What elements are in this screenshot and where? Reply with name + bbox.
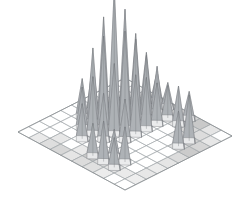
chart-canvas <box>0 0 250 204</box>
spike-surface-svg <box>0 0 250 204</box>
